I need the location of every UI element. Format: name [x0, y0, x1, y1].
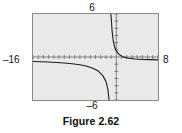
plot-svg — [33, 14, 158, 100]
window-label-ymin: –6 — [0, 101, 182, 111]
window-label-ymax: 6 — [0, 3, 182, 13]
figure-caption: Figure 2.62 — [0, 115, 182, 127]
graph-screen — [32, 13, 159, 101]
x-axis — [33, 55, 158, 59]
figure-container: 6 –16 8 –6 Figure 2.62 — [0, 0, 182, 133]
window-label-xmax: 8 — [163, 55, 169, 65]
window-label-xmin: –16 — [3, 55, 20, 65]
